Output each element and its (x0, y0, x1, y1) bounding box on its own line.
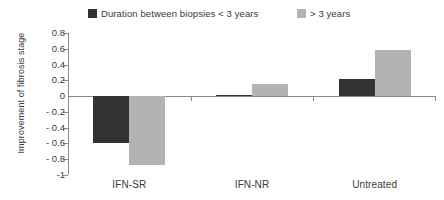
y-axis-title: Improvement of fibrosis stage (16, 18, 26, 168)
legend-label-1: > 3 years (310, 8, 350, 19)
y-tick-label: - 0.4 (46, 123, 65, 133)
x-axis-label-ifn-nr: IFN-NR (235, 179, 269, 191)
x-axis-label-ifn-sr: IFN-SR (112, 179, 146, 191)
legend-swatch-light (297, 9, 306, 18)
bar-ifn-sr-series-1 (129, 96, 165, 165)
bar-untreated-series-1 (375, 50, 411, 96)
y-tick-label: - 0.6 (46, 138, 65, 148)
legend-label-0: Duration between biopsies < 3 years (101, 8, 258, 19)
y-tick-label: 0.6 (52, 44, 65, 54)
bar-chart-figure: Duration between biopsies < 3 years > 3 … (0, 0, 444, 200)
x-axis-group-separator (313, 96, 314, 101)
y-axis-spine (68, 33, 69, 175)
y-tick-label: 0.4 (52, 60, 65, 70)
chart-legend: Duration between biopsies < 3 years > 3 … (0, 8, 444, 24)
bar-ifn-sr-series-0 (93, 96, 129, 143)
y-tick-label: - 0.2 (46, 107, 65, 117)
x-axis-group-separator (435, 96, 436, 101)
y-tick-label: 0.8 (52, 28, 65, 38)
x-axis-group-separator (191, 96, 192, 101)
y-tick-label: 0.2 (52, 75, 65, 85)
plot-area: 0.80.60.40.20- 0.2- 0.4- 0.6- 0.8-1 IFN-… (68, 33, 436, 175)
y-tick-label: - 0.8 (46, 154, 65, 164)
bar-ifn-nr-series-1 (252, 84, 288, 96)
x-axis-group-separator (68, 96, 69, 101)
legend-entry-gt-3-years: > 3 years (297, 8, 350, 19)
bar-ifn-nr-series-0 (216, 95, 252, 96)
x-axis-label-untreated: Untreated (352, 179, 397, 191)
y-tick-label: 0 (60, 91, 65, 101)
legend-swatch-dark (88, 9, 97, 18)
y-tick-label: -1 (57, 170, 65, 180)
bar-untreated-series-0 (339, 79, 375, 96)
legend-entry-duration-lt-3-years: Duration between biopsies < 3 years (88, 8, 258, 19)
